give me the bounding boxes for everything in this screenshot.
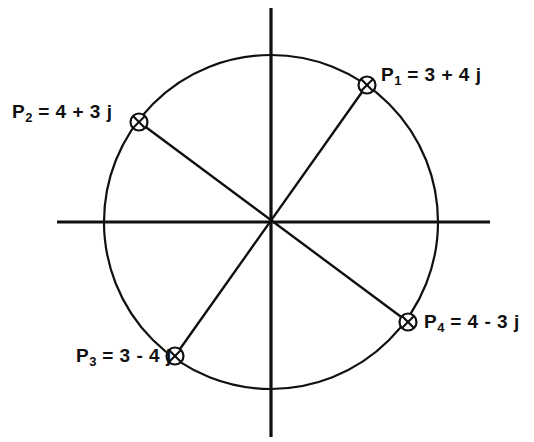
point-marker-p4 (400, 314, 417, 331)
point-label-p1-expression: = 3 + 4 j (407, 64, 481, 85)
point-label-p4-subscript: 4 (437, 320, 444, 335)
point-marker-p2 (131, 114, 148, 131)
point-label-p4-base: P (424, 311, 437, 332)
point-label-p2: P2 = 4 + 3 j (12, 102, 112, 124)
point-label-p2-subscript: 2 (25, 110, 32, 125)
point-label-p3-base: P (76, 345, 89, 366)
point-label-p4-expression: = 4 - 3 j (450, 311, 519, 332)
point-marker-p1 (359, 77, 376, 94)
point-label-p2-base: P (12, 101, 25, 122)
point-label-p4: P4 = 4 - 3 j (424, 312, 520, 334)
point-label-p3-expression: = 3 - 4 j (102, 345, 171, 366)
point-label-p1: P1 = 3 + 4 j (381, 65, 481, 87)
complex-plane-figure: P1 = 3 + 4 j P2 = 4 + 3 j P3 = 3 - 4 j P… (0, 0, 534, 442)
point-label-p1-subscript: 1 (394, 73, 401, 88)
point-label-p2-expression: = 4 + 3 j (38, 101, 112, 122)
point-label-p3-subscript: 3 (89, 354, 96, 369)
point-label-p1-base: P (381, 64, 394, 85)
point-label-p3: P3 = 3 - 4 j (76, 346, 172, 368)
